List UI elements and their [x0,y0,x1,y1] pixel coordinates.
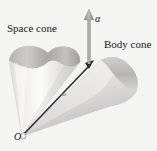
alpha-vector-arrow [84,9,94,64]
space-cone-label: Space cone [7,22,57,34]
origin-label: O [14,131,21,142]
cone-figure: Space cone Body cone α ω O [0,0,157,151]
omega-label: ω [61,90,66,98]
alpha-label: α [95,13,100,24]
alpha-arrow-head [84,9,94,20]
alpha-arrow-shaft [88,17,91,64]
body-cone-label: Body cone [104,38,151,50]
